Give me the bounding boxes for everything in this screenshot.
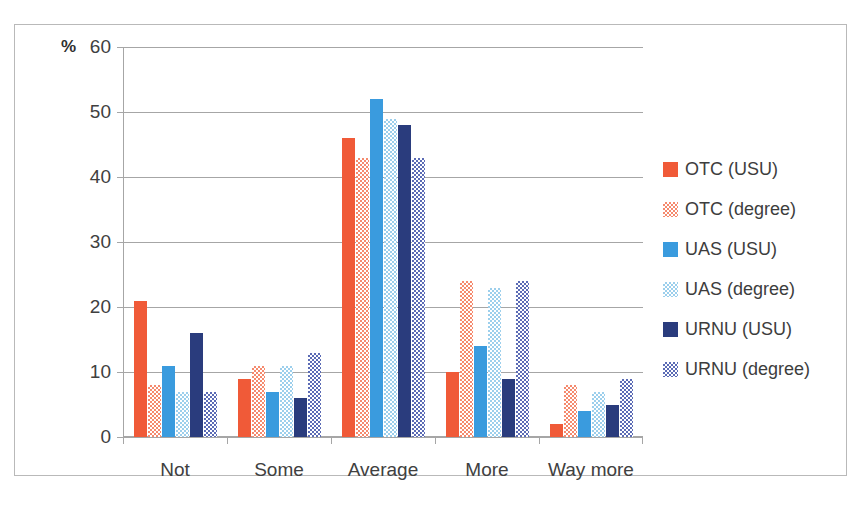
bar-group-more: More xyxy=(435,47,539,437)
legend-swatch-icon-urnu_deg xyxy=(663,362,678,377)
bar-urnu_deg-average[interactable] xyxy=(412,158,425,437)
y-tick-label-20: 20 xyxy=(90,296,111,318)
bar-urnu_usu-not[interactable] xyxy=(190,333,203,437)
x-axis-label-way-more: Way more xyxy=(548,459,634,481)
x-tick-mark xyxy=(123,437,124,444)
bar-group-way-more: Way more xyxy=(539,47,643,437)
legend-swatch-icon-urnu_usu xyxy=(663,322,678,337)
bar-uas_deg-way-more[interactable] xyxy=(592,392,605,438)
legend-swatch-icon-otc_deg xyxy=(663,202,678,217)
bar-urnu_usu-way-more[interactable] xyxy=(606,405,619,437)
chart-frame: % 0102030405060 NotSomeAverageMoreWay mo… xyxy=(14,24,847,476)
y-tick-label-40: 40 xyxy=(90,166,111,188)
legend-label-otc_usu: OTC (USU) xyxy=(685,159,778,180)
x-tick-mark xyxy=(227,437,228,444)
legend-swatch-icon-uas_usu xyxy=(663,242,678,257)
bar-urnu_deg-some[interactable] xyxy=(308,353,321,438)
bar-groups: NotSomeAverageMoreWay more xyxy=(123,47,643,437)
bar-uas_usu-not[interactable] xyxy=(162,366,175,438)
legend-swatch-icon-otc_usu xyxy=(663,162,678,177)
bar-group-average: Average xyxy=(331,47,435,437)
bar-otc_deg-some[interactable] xyxy=(252,366,265,438)
bar-urnu_usu-average[interactable] xyxy=(398,125,411,437)
x-tick-mark xyxy=(435,437,436,444)
y-tick-label-0: 0 xyxy=(100,426,111,448)
bar-otc_usu-average[interactable] xyxy=(342,138,355,437)
x-axis-label-some: Some xyxy=(254,459,304,481)
y-tick-label-60: 60 xyxy=(90,36,111,58)
legend-item-otc_usu[interactable]: OTC (USU) xyxy=(663,149,843,189)
legend-item-urnu_deg[interactable]: URNU (degree) xyxy=(663,349,843,389)
legend-item-urnu_usu[interactable]: URNU (USU) xyxy=(663,309,843,349)
bar-group-some: Some xyxy=(227,47,331,437)
bar-otc_deg-more[interactable] xyxy=(460,281,473,437)
bar-uas_deg-not[interactable] xyxy=(176,392,189,438)
bar-otc_usu-not[interactable] xyxy=(134,301,147,438)
legend-swatch-icon-uas_deg xyxy=(663,282,678,297)
bar-uas_deg-more[interactable] xyxy=(488,288,501,437)
y-tick-label-30: 30 xyxy=(90,231,111,253)
bar-uas_deg-average[interactable] xyxy=(384,119,397,437)
legend-item-uas_usu[interactable]: UAS (USU) xyxy=(663,229,843,269)
bar-uas_usu-way-more[interactable] xyxy=(578,411,591,437)
x-axis-label-average: Average xyxy=(348,459,418,481)
legend-item-uas_deg[interactable]: UAS (degree) xyxy=(663,269,843,309)
y-tick-label-50: 50 xyxy=(90,101,111,123)
y-axis-title: % xyxy=(61,37,76,57)
bar-urnu_deg-way-more[interactable] xyxy=(620,379,633,438)
bar-uas_usu-more[interactable] xyxy=(474,346,487,437)
x-axis-label-more: More xyxy=(465,459,508,481)
bar-uas_usu-some[interactable] xyxy=(266,392,279,438)
chart-legend: OTC (USU)OTC (degree)UAS (USU)UAS (degre… xyxy=(663,149,843,389)
gridline-0 xyxy=(123,437,643,438)
bar-otc_deg-average[interactable] xyxy=(356,158,369,437)
legend-label-urnu_deg: URNU (degree) xyxy=(685,359,810,380)
legend-label-otc_deg: OTC (degree) xyxy=(685,199,796,220)
bar-otc_usu-more[interactable] xyxy=(446,372,459,437)
bar-uas_usu-average[interactable] xyxy=(370,99,383,437)
x-axis-label-not: Not xyxy=(160,459,190,481)
legend-label-urnu_usu: URNU (USU) xyxy=(685,319,792,340)
bar-urnu_deg-more[interactable] xyxy=(516,281,529,437)
x-tick-mark xyxy=(331,437,332,444)
bar-urnu_usu-more[interactable] xyxy=(502,379,515,438)
legend-label-uas_usu: UAS (USU) xyxy=(685,239,777,260)
y-tick-label-10: 10 xyxy=(90,361,111,383)
bar-uas_deg-some[interactable] xyxy=(280,366,293,438)
plot-area: 0102030405060 NotSomeAverageMoreWay more xyxy=(123,47,643,437)
legend-item-otc_deg[interactable]: OTC (degree) xyxy=(663,189,843,229)
bar-otc_usu-way-more[interactable] xyxy=(550,424,563,437)
bar-otc_deg-not[interactable] xyxy=(148,385,161,437)
legend-label-uas_deg: UAS (degree) xyxy=(685,279,795,300)
bar-urnu_usu-some[interactable] xyxy=(294,398,307,437)
x-tick-mark xyxy=(642,437,643,444)
x-tick-mark xyxy=(539,437,540,444)
bar-group-not: Not xyxy=(123,47,227,437)
bar-urnu_deg-not[interactable] xyxy=(204,392,217,438)
bar-otc_usu-some[interactable] xyxy=(238,379,251,438)
bar-otc_deg-way-more[interactable] xyxy=(564,385,577,437)
